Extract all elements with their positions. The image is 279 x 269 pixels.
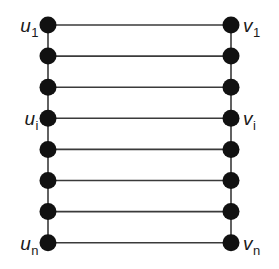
- vertex-label-base: u: [20, 15, 31, 36]
- vertex-label-ui: ui: [25, 109, 38, 128]
- vertex-label-subscript: 1: [253, 25, 260, 40]
- vertex-node-u7: [40, 203, 57, 220]
- vertex-label-base: u: [25, 108, 36, 129]
- vertex-node-v7: [223, 203, 240, 220]
- vertex-node-u1: [40, 17, 57, 34]
- vertex-node-u3: [40, 79, 57, 96]
- vertex-node-u8: [40, 234, 57, 251]
- vertex-label-vn: vn: [243, 234, 260, 253]
- vertex-label-base: u: [20, 233, 31, 254]
- vertex-node-v1: [223, 17, 240, 34]
- vertex-label-subscript: n: [253, 243, 260, 258]
- vertex-label-un: un: [20, 234, 38, 253]
- graph-canvas: [0, 0, 279, 269]
- vertex-label-subscript: 1: [31, 25, 38, 40]
- vertex-node-v6: [223, 172, 240, 189]
- node-layer: [40, 17, 240, 252]
- vertex-label-vi: vi: [243, 109, 255, 128]
- vertex-label-base: v: [243, 15, 253, 36]
- edge-layer: [48, 25, 231, 243]
- graph-figure: u1uiunv1vivn: [0, 0, 279, 269]
- vertex-label-subscript: i: [36, 118, 39, 133]
- vertex-node-v3: [223, 79, 240, 96]
- vertex-node-v8: [223, 234, 240, 251]
- vertex-node-u4: [40, 110, 57, 127]
- vertex-node-u2: [40, 48, 57, 65]
- vertex-node-v5: [223, 141, 240, 158]
- vertex-node-v4: [223, 110, 240, 127]
- vertex-label-subscript: n: [31, 243, 38, 258]
- vertex-label-u1: u1: [20, 16, 38, 35]
- vertex-node-u5: [40, 141, 57, 158]
- vertex-label-base: v: [243, 108, 253, 129]
- vertex-node-v2: [223, 48, 240, 65]
- vertex-node-u6: [40, 172, 57, 189]
- vertex-label-subscript: i: [253, 118, 256, 133]
- vertex-label-v1: v1: [243, 16, 260, 35]
- vertex-label-base: v: [243, 233, 253, 254]
